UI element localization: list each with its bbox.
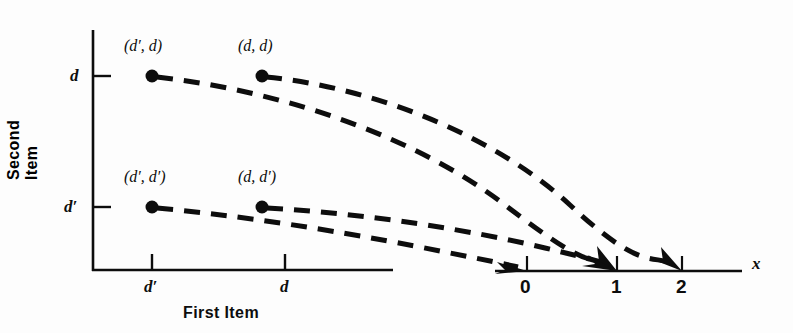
dot-d-d xyxy=(256,70,269,83)
dot-dprime-d xyxy=(146,70,159,83)
y-tick-label-d-prime: d′ xyxy=(64,198,77,215)
number-line-label-2: 2 xyxy=(676,277,687,296)
figure-canvas: (d′, d) (d, d) (d′, d′) (d, d′) d d′ d′ … xyxy=(0,0,793,333)
number-line-label-1: 1 xyxy=(611,277,622,296)
point-label-dprime-d: (d′, d) xyxy=(124,38,162,54)
number-line-label-0: 0 xyxy=(520,277,531,296)
number-line-axis xyxy=(495,256,742,271)
point-label-d-dprime: (d, d′) xyxy=(238,169,276,185)
dot-dprime-dprime xyxy=(146,201,159,214)
x-axis-title: First Item xyxy=(183,305,259,321)
y-tick-label-d: d xyxy=(70,67,79,84)
point-label-dprime-dprime: (d′, d′) xyxy=(124,169,166,185)
curve-dd-to-2 xyxy=(266,77,672,263)
curve-ddprime-to-1 xyxy=(267,208,608,265)
number-line-variable-label: x xyxy=(752,255,761,272)
x-tick-label-d: d xyxy=(280,278,289,295)
curve-dprimedprime-to-0 xyxy=(157,208,518,267)
mapping-curves xyxy=(157,77,672,267)
point-label-d-d: (d, d) xyxy=(238,38,273,54)
y-axis-title: Second Item xyxy=(5,120,41,180)
figure-svg xyxy=(0,0,793,333)
x-tick-label-d-prime: d′ xyxy=(144,278,157,295)
y-axis-title-wrapper: Second Item xyxy=(10,60,36,240)
dot-d-dprime xyxy=(256,201,269,214)
curve-dprimed-to-1 xyxy=(157,77,607,264)
